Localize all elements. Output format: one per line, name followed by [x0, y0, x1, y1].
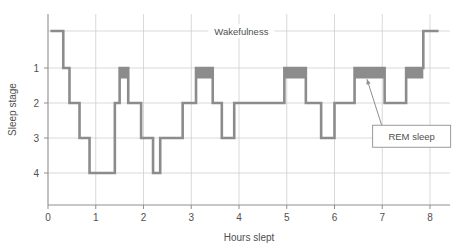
- x-tick-label-1: 1: [93, 212, 99, 223]
- x-tick-label-8: 8: [427, 212, 433, 223]
- x-tick-label-3: 3: [188, 212, 194, 223]
- rem-block-3: [284, 68, 305, 79]
- y-tick-label-0: 1: [33, 63, 39, 74]
- x-tick-label-0: 0: [45, 212, 51, 223]
- y-tick-label-2: 3: [33, 133, 39, 144]
- sleep-stage-trace: [50, 31, 438, 173]
- hypnogram-figure: 0123456781234 Hours sleptSleep stage REM…: [0, 0, 475, 248]
- rem-block-2: [196, 68, 213, 79]
- rem-block-4: [355, 68, 385, 79]
- y-tick-label-3: 4: [33, 168, 39, 179]
- annotations-group: REM sleepWakefulness: [208, 24, 450, 147]
- grid-lines: [48, 14, 450, 205]
- sleep-stage-chart: 0123456781234 Hours sleptSleep stage REM…: [0, 0, 475, 248]
- x-axis-title: Hours slept: [224, 232, 275, 243]
- x-tick-label-4: 4: [236, 212, 242, 223]
- tick-marks: [44, 68, 430, 209]
- sleep-trace-group: [50, 31, 438, 173]
- rem-blocks-group: [120, 68, 424, 79]
- x-tick-label-6: 6: [332, 212, 338, 223]
- axis-lines: [48, 14, 450, 205]
- rem-block-5: [406, 68, 423, 79]
- y-axis-title: Sleep stage: [7, 83, 18, 136]
- rem-sleep-label-text: REM sleep: [388, 131, 434, 142]
- x-tick-label-7: 7: [379, 212, 385, 223]
- rem-callout-arrowhead: [366, 79, 370, 84]
- x-tick-label-5: 5: [284, 212, 290, 223]
- wakefulness-label-text: Wakefulness: [214, 26, 268, 37]
- x-tick-label-2: 2: [141, 212, 147, 223]
- y-tick-label-1: 2: [33, 98, 39, 109]
